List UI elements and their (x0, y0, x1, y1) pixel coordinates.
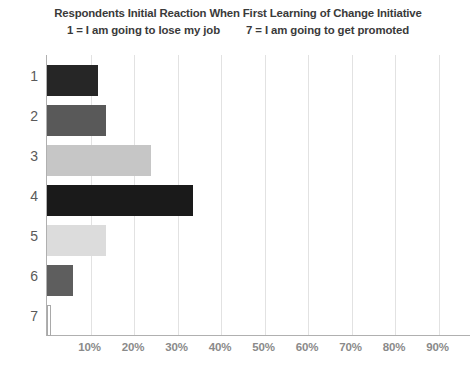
category-label-6: 6 (0, 268, 38, 284)
bar-row (47, 220, 471, 260)
x-tick-label-90%: 90% (426, 341, 448, 353)
bar-6[interactable] (47, 265, 73, 296)
bar-5[interactable] (47, 225, 106, 256)
x-tick-label-50%: 50% (252, 341, 274, 353)
bar-row (47, 260, 471, 300)
bar-row (47, 140, 471, 180)
x-tick-label-10%: 10% (78, 341, 100, 353)
category-label-4: 4 (0, 188, 38, 204)
bar-4[interactable] (47, 185, 193, 216)
chart-subtitle-row: 1 = I am going to lose my job 7 = I am g… (0, 23, 476, 38)
plot-area (46, 55, 470, 336)
category-label-7: 7 (0, 308, 38, 324)
x-tick-label-70%: 70% (339, 341, 361, 353)
scale-legend-high: 7 = I am going to get promoted (246, 23, 409, 38)
scale-legend-low: 1 = I am going to lose my job (67, 23, 220, 38)
category-label-1: 1 (0, 68, 38, 84)
page-title: Respondents Initial Reaction When First … (0, 6, 476, 21)
bar-7[interactable] (47, 305, 51, 336)
category-label-5: 5 (0, 228, 38, 244)
x-tick-label-40%: 40% (209, 341, 231, 353)
x-tick-label-30%: 30% (165, 341, 187, 353)
bar-row (47, 100, 471, 140)
bar-row (47, 300, 471, 340)
bar-3[interactable] (47, 145, 151, 176)
bar-row (47, 60, 471, 100)
category-label-3: 3 (0, 148, 38, 164)
chart-title-block: Respondents Initial Reaction When First … (0, 6, 476, 38)
bar-2[interactable] (47, 105, 106, 136)
category-label-2: 2 (0, 108, 38, 124)
bar-1[interactable] (47, 65, 98, 96)
x-tick-label-80%: 80% (383, 341, 405, 353)
chart-container: Respondents Initial Reaction When First … (0, 0, 476, 388)
x-tick-label-20%: 20% (122, 341, 144, 353)
bar-row (47, 180, 471, 220)
x-tick-label-60%: 60% (296, 341, 318, 353)
